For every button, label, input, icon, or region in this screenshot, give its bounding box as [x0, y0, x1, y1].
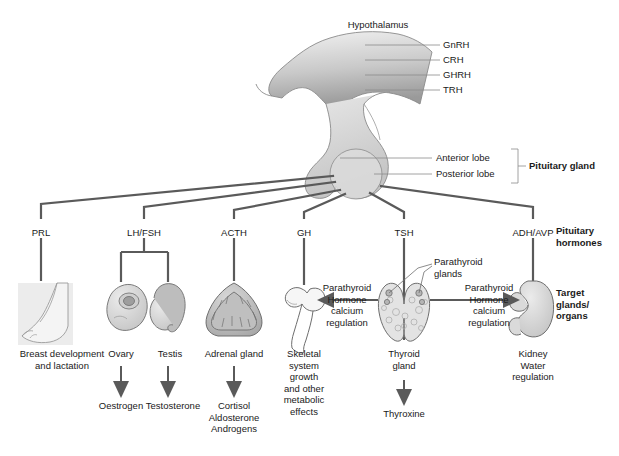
hypothalamus-label: Hypothalamus: [348, 19, 409, 31]
anterior-lobe-label: Anterior lobe: [436, 152, 490, 164]
organ-label-breast: Breast development and lactation: [20, 348, 105, 371]
organ-label-thyroid: Thyroid gland: [388, 348, 420, 371]
parathyroid-left-arrow-label: Parathyroid Hormone calcium regulation: [323, 282, 372, 328]
secretion-label-thyroxine: Thyroxine: [383, 408, 425, 420]
pituitary-gland-group-label: Pituitary gland: [529, 160, 595, 172]
parathyroid-glands-callout: Parathyroid glands: [434, 256, 483, 279]
secretion-label-oestrogen: Oestrogen: [99, 400, 143, 412]
releasing-hormone-trh: TRH: [443, 84, 463, 96]
pituitary-illustration: [305, 92, 390, 199]
releasing-hormone-ghrh: GHRH: [443, 69, 471, 81]
hormone-label-tsh: TSH: [395, 227, 414, 239]
hormone-label-adhavp: ADH/AVP: [512, 227, 553, 239]
pituitary-hormone-connectors: [41, 176, 533, 218]
row-label-pituitary-hormones: Pituitary hormones: [556, 225, 602, 248]
diagram-canvas: Hypothalamus GnRH CRH GHRH TRH Anterior …: [0, 0, 619, 456]
kidney-illustration: [509, 281, 554, 337]
row-label-target-organs: Target glands/ organs: [556, 287, 589, 322]
parathyroid-right-arrow-label: Parathyroid Hormone calcium regulation: [465, 282, 514, 328]
hormone-label-gh: GH: [297, 227, 311, 239]
organ-label-ovary: Ovary: [108, 348, 133, 360]
secretion-label-testosterone: Testosterone: [146, 400, 200, 412]
organ-label-skeletal: Skeletal system growth and other metabol…: [284, 348, 325, 417]
testis-illustration: [150, 284, 185, 332]
releasing-hormone-crh: CRH: [443, 54, 464, 66]
secretion-label-adrenal-hormones: Cortisol Aldosterone Androgens: [209, 400, 260, 435]
hormone-label-prl: PRL: [32, 227, 50, 239]
hormone-label-acth: ACTH: [221, 227, 247, 239]
skeletal-system-illustration: [285, 288, 325, 353]
releasing-hormone-gnrh: GnRH: [443, 39, 469, 51]
ovary-illustration: [107, 284, 147, 330]
posterior-lobe-label: Posterior lobe: [436, 168, 495, 180]
organ-label-kidney: Kidney Water regulation: [512, 348, 554, 383]
breast-illustration: [18, 283, 73, 345]
thyroid-gland-illustration: [378, 264, 432, 341]
adrenal-gland-illustration: [206, 283, 262, 336]
secretion-arrows: [121, 366, 404, 404]
organ-label-testis: Testis: [158, 348, 182, 360]
organ-label-adrenal: Adrenal gland: [205, 348, 264, 360]
hormone-label-lhfsh: LH/FSH: [127, 227, 161, 239]
hypothalamus-illustration: [256, 32, 432, 108]
